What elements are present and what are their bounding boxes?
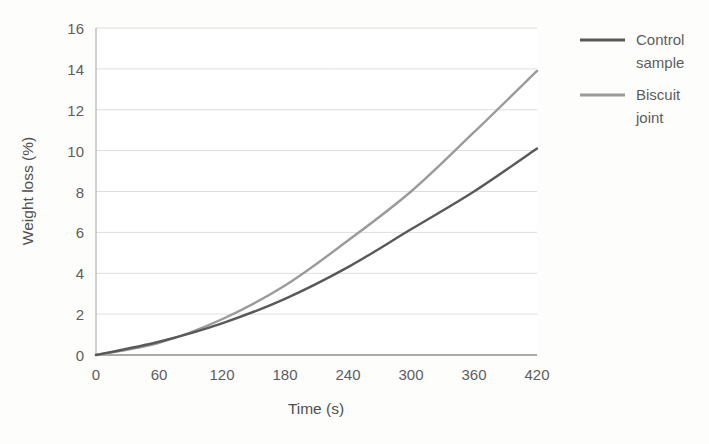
x-tick-label: 300 [398, 366, 423, 383]
y-tick-label: 4 [76, 265, 84, 282]
y-tick-labels: 16 14 12 10 8 6 4 2 0 [67, 20, 84, 364]
legend-label-control-line2: sample [636, 54, 684, 71]
line-chart-svg: 16 14 12 10 8 6 4 2 0 0 60 120 180 240 3… [0, 0, 709, 444]
x-tick-label: 180 [272, 366, 297, 383]
x-tick-label: 420 [524, 366, 549, 383]
y-tick-label: 12 [67, 102, 84, 119]
x-tick-label: 0 [92, 366, 100, 383]
y-tick-label: 8 [76, 184, 84, 201]
y-axis-title: Weight loss (%) [19, 137, 36, 245]
x-tick-label: 120 [209, 366, 234, 383]
x-axis-title: Time (s) [288, 400, 344, 417]
legend-label-control-line1: Control [636, 31, 684, 48]
x-tick-label: 240 [335, 366, 360, 383]
legend-label-biscuit-line1: Biscuit [636, 86, 681, 103]
legend-label-biscuit-line2: joint [635, 109, 664, 126]
y-tick-label: 6 [76, 224, 84, 241]
x-tick-labels: 0 60 120 180 240 300 360 420 [92, 366, 550, 383]
y-tick-label: 14 [67, 61, 84, 78]
chart-figure: 16 14 12 10 8 6 4 2 0 0 60 120 180 240 3… [0, 0, 709, 444]
y-tick-label: 2 [76, 306, 84, 323]
y-tick-label: 10 [67, 143, 84, 160]
chart-legend: Control sample Biscuit joint [580, 31, 684, 126]
x-tick-label: 360 [461, 366, 486, 383]
y-tick-label: 16 [67, 20, 84, 37]
x-tick-label: 60 [151, 366, 168, 383]
y-tick-label: 0 [76, 347, 84, 364]
